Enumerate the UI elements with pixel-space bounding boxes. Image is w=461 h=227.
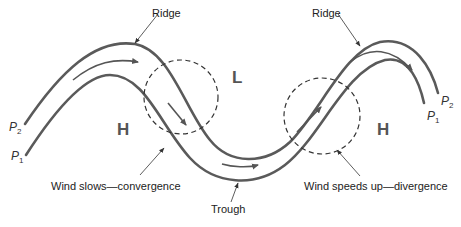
divergence-circle	[284, 78, 360, 154]
leader-convergence	[140, 148, 164, 175]
upper-level-wave-diagram: Ridge Ridge Trough Wind slows—convergenc…	[0, 0, 461, 227]
contour-p1	[26, 59, 424, 180]
label-convergence: Wind slows—convergence	[51, 180, 181, 192]
label-p1-right: P1	[427, 109, 440, 125]
label-p2-right: P2	[441, 94, 454, 110]
label-p1-left: P1	[11, 149, 24, 165]
leader-divergence	[337, 150, 360, 176]
label-divergence: Wind speeds up—divergence	[304, 180, 448, 192]
label-trough: Trough	[211, 203, 245, 215]
flow-arrow-ridge-left	[73, 61, 138, 80]
flow-arrow-convergence	[168, 103, 186, 125]
flow-arrow-trough	[222, 164, 258, 167]
leader-ridge-right	[338, 14, 360, 46]
leader-trough	[231, 183, 238, 202]
label-ridge-right: Ridge	[312, 7, 341, 19]
label-ridge-left: Ridge	[152, 7, 181, 19]
label-p2-left: P2	[9, 120, 22, 136]
label-high-right: H	[377, 120, 389, 139]
label-high-left: H	[117, 120, 129, 139]
convergence-circle	[144, 60, 218, 134]
contour-p2	[25, 41, 438, 159]
label-low: L	[232, 68, 242, 87]
